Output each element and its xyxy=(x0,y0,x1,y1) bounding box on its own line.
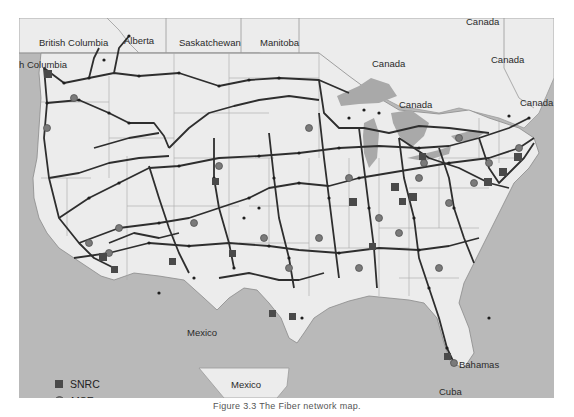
label-alberta: Alberta xyxy=(124,35,155,46)
label-canada-top: Canada xyxy=(466,18,500,27)
label-canada-east: Canada xyxy=(491,54,525,65)
label-manitoba: Manitoba xyxy=(260,37,300,48)
label-canada-huron: Canada xyxy=(399,99,433,110)
label-cuba: Cuba xyxy=(439,386,462,397)
map-canvas: British Columbia Alberta Saskatchewan Ma… xyxy=(19,18,554,398)
label-canada-quebec: Canada xyxy=(520,97,554,108)
legend-item-snrc: SNRC xyxy=(41,375,100,392)
label-mexico-south: Mexico xyxy=(231,379,261,390)
legend-item-mse: MSE xyxy=(41,392,100,398)
legend-label-snrc: SNRC xyxy=(70,378,100,390)
label-saskatchewan: Saskatchewan xyxy=(179,37,241,48)
map-legend: SNRC MSE xyxy=(41,375,100,398)
network-map: British Columbia Alberta Saskatchewan Ma… xyxy=(19,18,554,398)
label-british-columbia: British Columbia xyxy=(39,37,109,48)
legend-label-mse: MSE xyxy=(71,395,94,399)
circle-marker-icon xyxy=(55,396,64,398)
label-mexico-north: Mexico xyxy=(187,327,217,338)
square-marker-icon xyxy=(55,380,63,388)
figure-caption: Figure 3.3 The Fiber network map. xyxy=(0,401,574,411)
label-canada-superior: Canada xyxy=(372,58,406,69)
label-bahamas: Bahamas xyxy=(459,359,499,370)
label-bc-fragment: h Columbia xyxy=(19,59,68,70)
